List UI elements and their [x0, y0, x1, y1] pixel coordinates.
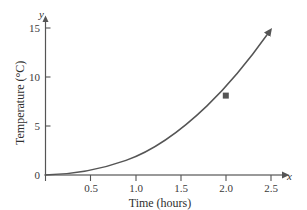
- x-tick-label-1-0: 1.0: [129, 183, 143, 194]
- y-axis-title: Temperature (°C): [13, 61, 28, 145]
- data-point-marker: [223, 93, 229, 99]
- y-tick-label-15: 15: [14, 23, 40, 34]
- temperature-vs-time-chart: 15 10 5 0 0.5 1.0 1.5 2.0 2.5 y x Time (…: [0, 0, 307, 210]
- chart-plot-area: [0, 0, 307, 210]
- temperature-curve: [45, 34, 268, 176]
- y-tick-label-0: 0: [14, 170, 40, 181]
- x-tick-label-2-0: 2.0: [219, 183, 233, 194]
- x-tick-label-0-5: 0.5: [84, 183, 98, 194]
- x-axis-ticks: [46, 175, 272, 181]
- x-axis-title: Time (hours): [129, 196, 192, 210]
- x-axis-variable-label: x: [287, 171, 292, 182]
- x-tick-label-2-5: 2.5: [264, 183, 278, 194]
- y-axis-variable-label: y: [39, 9, 44, 20]
- x-tick-label-1-5: 1.5: [174, 183, 188, 194]
- y-axis-ticks: [46, 28, 51, 126]
